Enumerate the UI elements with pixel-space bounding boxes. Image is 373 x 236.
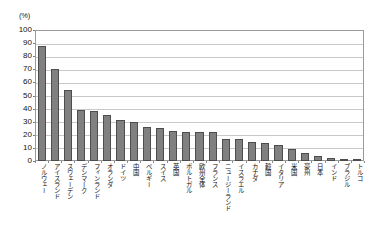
x-axis-category-label: フランス — [208, 163, 218, 187]
x-axis-category-label: 英国 — [168, 163, 178, 175]
bar — [64, 90, 72, 161]
bar-slot — [209, 30, 217, 161]
bar — [327, 158, 335, 161]
y-axis-tick-label: 50 — [23, 92, 32, 100]
bar — [38, 46, 46, 161]
bar-slot — [327, 30, 335, 161]
bar — [288, 149, 296, 161]
x-axis-category-label: デンマーク — [76, 163, 86, 193]
bar-slot — [64, 30, 72, 161]
x-axis-category-label: 欧州全体 — [195, 163, 205, 187]
bar — [353, 159, 361, 161]
y-axis-tick-label: 90 — [23, 39, 32, 47]
bar — [130, 122, 138, 161]
bar — [156, 128, 164, 161]
bar — [143, 127, 151, 161]
bar — [195, 132, 203, 161]
bar — [103, 115, 111, 161]
y-axis-tick-label: 30 — [23, 118, 32, 126]
bar — [314, 156, 322, 161]
bar-slot — [77, 30, 85, 161]
bar — [51, 69, 59, 161]
bar-slot — [248, 30, 256, 161]
x-axis-category-label: スウェーデン — [63, 163, 73, 199]
bar-slot — [261, 30, 269, 161]
bar — [182, 132, 190, 161]
bar — [340, 159, 348, 161]
y-axis: 0102030405060708090100 — [0, 0, 35, 236]
bar — [116, 120, 124, 161]
x-axis-category-label: カナダ — [247, 163, 257, 181]
y-axis-tick-label: 40 — [23, 105, 32, 113]
x-axis-category-label: ベルギー — [142, 163, 152, 187]
y-axis-tick-label: 10 — [23, 144, 32, 152]
x-axis-category-label: フィンランド — [89, 163, 99, 199]
x-axis-tick-mark — [364, 161, 365, 163]
y-axis-tick-label: 80 — [23, 52, 32, 60]
bar-slot — [182, 30, 190, 161]
y-axis-tick-label: 100 — [19, 26, 32, 34]
y-axis-tick-label: 70 — [23, 65, 32, 73]
bar-slot — [195, 30, 203, 161]
bar — [90, 111, 98, 161]
bar-slot — [116, 30, 124, 161]
bar-slot — [90, 30, 98, 161]
bar — [209, 132, 217, 161]
x-axis-category-label: ドイツ — [116, 163, 126, 181]
x-axis-category-label: 米国 — [287, 163, 297, 175]
bars-layer — [35, 30, 364, 161]
bar-slot — [169, 30, 177, 161]
bar-slot — [143, 30, 151, 161]
x-axis-category-label: 中国 — [129, 163, 139, 175]
bar-slot — [38, 30, 46, 161]
x-axis-category-label: 日本 — [313, 163, 323, 175]
x-axis-category-label: ニュージーランド — [221, 163, 231, 211]
bar-slot — [130, 30, 138, 161]
bar — [222, 139, 230, 161]
bar-slot — [235, 30, 243, 161]
x-axis-category-label: アイスランド — [50, 163, 60, 199]
bar — [274, 145, 282, 161]
x-axis-category-label: イスラエル — [234, 163, 244, 193]
bar — [301, 153, 309, 161]
bar-slot — [301, 30, 309, 161]
bar-slot — [353, 30, 361, 161]
bar-slot — [156, 30, 164, 161]
x-axis-category-label: イタリア — [273, 163, 283, 187]
x-axis-category-label: スイス — [155, 163, 165, 181]
bar-slot — [340, 30, 348, 161]
bar — [169, 131, 177, 161]
x-axis-category-label: ブラジル — [339, 163, 349, 187]
y-axis-tick-label: 60 — [23, 78, 32, 86]
x-axis-labels: ノルウェーアイスランドスウェーデンデンマークフィンランドオランダドイツ中国ベルギ… — [35, 163, 364, 236]
bar — [248, 142, 256, 161]
bar-slot — [288, 30, 296, 161]
x-axis-category-label: ノルウェー — [37, 163, 47, 193]
bar-slot — [222, 30, 230, 161]
bar-slot — [51, 30, 59, 161]
bar-slot — [314, 30, 322, 161]
y-axis-tick-label: 20 — [23, 131, 32, 139]
bar-chart: (%) 0102030405060708090100 ノルウェーアイスランドスウ… — [0, 0, 373, 236]
x-axis-category-label: 豪州 — [300, 163, 310, 175]
bar — [77, 110, 85, 161]
bar-slot — [103, 30, 111, 161]
x-axis-category-label: トルコ — [352, 163, 362, 181]
x-axis-category-label: インド — [326, 163, 336, 181]
bar-slot — [274, 30, 282, 161]
bar — [261, 143, 269, 161]
y-axis-tick-label: 0 — [28, 157, 32, 165]
x-axis-category-label: オランダ — [102, 163, 112, 187]
x-axis-category-label: 韓国 — [260, 163, 270, 175]
bar — [235, 139, 243, 161]
x-axis-category-label: ポルトガル — [181, 163, 191, 193]
